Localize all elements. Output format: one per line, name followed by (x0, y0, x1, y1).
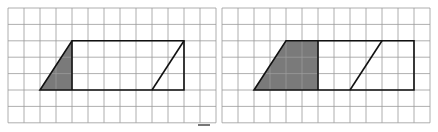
grid-panel-left (8, 8, 216, 123)
grid-figure (0, 0, 438, 132)
grid-panel-right (222, 8, 430, 123)
caption-mark (198, 124, 210, 126)
